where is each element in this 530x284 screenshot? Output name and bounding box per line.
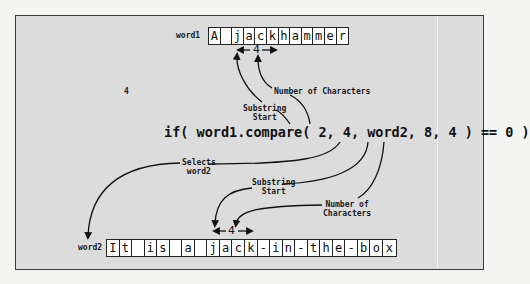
start-leader <box>276 110 290 124</box>
length-arrow-word1 <box>258 58 272 88</box>
length-arrow-word2 <box>236 205 322 224</box>
start2-leader <box>282 142 368 184</box>
selects-leader <box>208 142 340 164</box>
start-arrow-word2 <box>215 188 252 224</box>
selects-arrow <box>88 163 180 236</box>
length2-leader <box>358 142 384 198</box>
length-leader <box>290 95 310 124</box>
